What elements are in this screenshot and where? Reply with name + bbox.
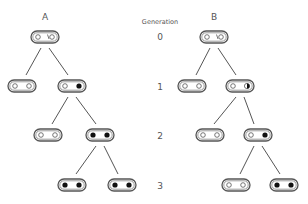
- open-site-icon: [39, 133, 44, 138]
- tree-edges: [26, 48, 280, 174]
- filled-site-icon: [76, 182, 81, 187]
- open-site-icon: [183, 84, 188, 89]
- tree-a-chromosome-gen1: [58, 80, 86, 92]
- open-site-icon: [215, 133, 220, 138]
- open-site-icon: [241, 183, 246, 188]
- tree-a-label: A: [42, 12, 49, 22]
- tree-a-edge: [26, 48, 41, 75]
- tree-b-edge: [240, 146, 254, 174]
- tree-b-edge: [244, 97, 254, 124]
- open-site-icon: [197, 84, 202, 89]
- open-site-icon: [205, 35, 210, 40]
- open-site-icon: [249, 133, 254, 138]
- filled-site-icon: [288, 182, 293, 187]
- filled-site-icon: [262, 132, 267, 137]
- tree-b-edge: [214, 97, 236, 124]
- generation-0-label: 0: [157, 32, 163, 42]
- tree-a-edge: [76, 146, 96, 174]
- tree-b-label: B: [211, 12, 217, 22]
- tree-b-chromosome-gen0: [200, 31, 228, 43]
- tree-nodes: [8, 31, 298, 191]
- tree-b-chromosome-gen1: [178, 80, 206, 92]
- tree-b-chromosome-gen3: [270, 179, 298, 191]
- open-site-icon: [201, 133, 206, 138]
- filled-site-icon: [90, 132, 95, 137]
- filled-site-icon: [62, 182, 67, 187]
- open-site-icon: [27, 84, 32, 89]
- open-site-icon: [50, 35, 55, 40]
- open-site-icon: [36, 35, 41, 40]
- tree-b-chromosome-gen3: [222, 179, 250, 191]
- filled-site-icon: [274, 182, 279, 187]
- generation-1-label: 1: [157, 82, 163, 92]
- tree-b-chromosome-gen2: [244, 129, 272, 141]
- open-site-icon: [219, 35, 224, 40]
- filled-site-icon: [112, 182, 117, 187]
- open-site-icon: [13, 84, 18, 89]
- tree-a-edge: [49, 48, 68, 75]
- filled-site-icon: [126, 182, 131, 187]
- filled-site-icon: [76, 83, 81, 88]
- open-site-icon: [53, 133, 58, 138]
- tree-a-chromosome-gen3: [108, 179, 136, 191]
- tree-a-chromosome-gen3: [58, 179, 86, 191]
- tree-b-edge: [196, 48, 210, 75]
- tree-a-chromosome-gen1: [8, 80, 36, 92]
- tree-a-edge: [76, 97, 96, 124]
- open-site-icon: [227, 183, 232, 188]
- tree-b-edge: [218, 48, 236, 75]
- replication-diagram: A B Generation 0 1 2 3: [0, 0, 308, 204]
- generation-3-label: 3: [157, 181, 163, 191]
- tree-a-chromosome-gen2: [86, 129, 114, 141]
- nick-mark: [217, 35, 219, 40]
- open-site-icon: [231, 84, 236, 89]
- tree-a-edge: [52, 97, 68, 124]
- nick-mark: [48, 35, 50, 40]
- tree-a-chromosome-gen0: [31, 31, 59, 43]
- generation-header: Generation: [142, 18, 178, 26]
- open-site-icon: [63, 84, 68, 89]
- tree-a-edge: [104, 146, 118, 174]
- filled-site-icon: [104, 132, 109, 137]
- tree-b-edge: [262, 146, 280, 174]
- generation-2-label: 2: [157, 131, 163, 141]
- tree-b-chromosome-gen1: [226, 80, 254, 92]
- tree-b-chromosome-gen2: [196, 129, 224, 141]
- tree-a-chromosome-gen2: [34, 129, 62, 141]
